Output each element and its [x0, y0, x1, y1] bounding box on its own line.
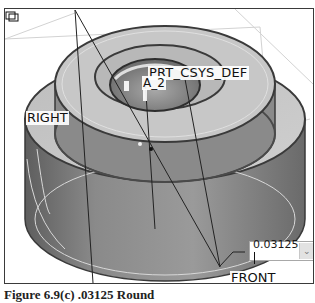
datum-plane-icon	[5, 9, 19, 23]
datum-label-front[interactable]: FRONT	[230, 271, 276, 284]
round-radius-input[interactable]: 0.03125 ⌄	[249, 241, 314, 261]
text-caret	[254, 252, 255, 264]
axis-marker	[124, 81, 129, 91]
axis-marker	[143, 89, 147, 101]
chevron-down-icon[interactable]: ⌄	[299, 243, 315, 259]
figure-caption: Figure 6.9(c) .03125 Round	[4, 287, 154, 303]
datum-label-right[interactable]: RIGHT	[26, 111, 69, 125]
round-radius-value[interactable]: 0.03125	[250, 238, 299, 264]
axis-label[interactable]: A_2	[142, 76, 166, 90]
model-viewport[interactable]: RIGHT PRT_CSYS_DEF A_2 FRONT 0.03125 ⌄	[4, 8, 314, 284]
